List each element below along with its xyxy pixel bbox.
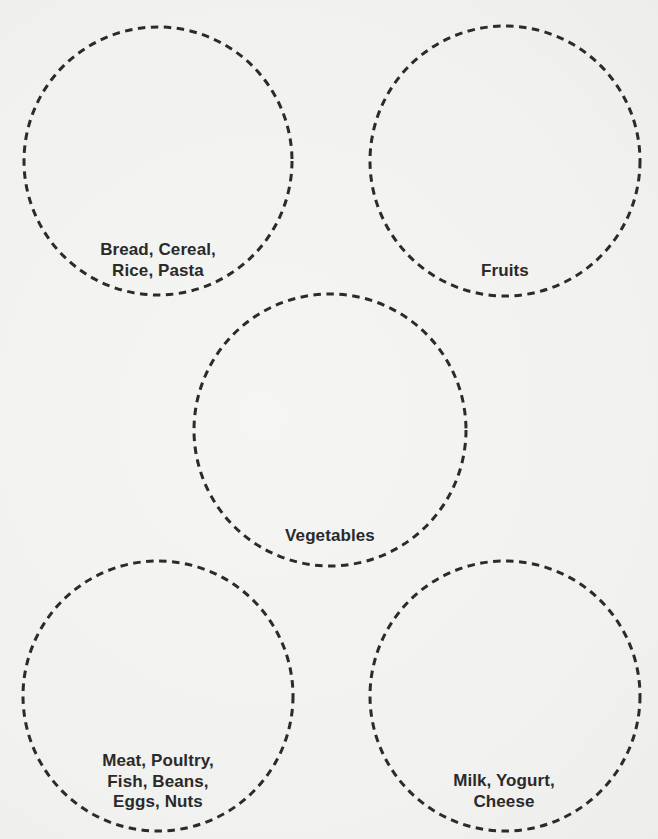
circle-fruits xyxy=(370,26,640,296)
label-dairy-line-1: Milk, Yogurt, xyxy=(404,771,604,792)
label-protein: Meat, Poultry, Fish, Beans, Eggs, Nuts xyxy=(58,751,258,813)
label-vegetables: Vegetables xyxy=(230,526,430,547)
food-group-circles xyxy=(0,0,658,839)
label-grains-line-2: Rice, Pasta xyxy=(58,261,258,282)
label-fruits: Fruits xyxy=(405,261,605,282)
label-vegetables-line-1: Vegetables xyxy=(230,526,430,547)
label-fruits-line-1: Fruits xyxy=(405,261,605,282)
label-grains: Bread, Cereal, Rice, Pasta xyxy=(58,240,258,281)
label-protein-line-3: Eggs, Nuts xyxy=(58,792,258,813)
label-grains-line-1: Bread, Cereal, xyxy=(58,240,258,261)
label-dairy-line-2: Cheese xyxy=(404,792,604,813)
label-protein-line-2: Fish, Beans, xyxy=(58,772,258,793)
worksheet-page: Bread, Cereal, Rice, Pasta Fruits Vegeta… xyxy=(0,0,658,839)
label-protein-line-1: Meat, Poultry, xyxy=(58,751,258,772)
label-dairy: Milk, Yogurt, Cheese xyxy=(404,771,604,812)
